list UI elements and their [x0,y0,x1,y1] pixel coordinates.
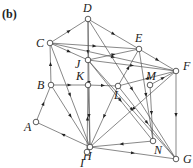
arrow-icon [68,113,73,118]
node-I [84,149,90,155]
arrow-icon [102,114,107,119]
node-label-L: L [113,88,121,102]
node-label-K: K [75,69,85,83]
node-label-E: E [134,31,143,45]
node-D [85,16,91,22]
directed-graph: (b) DCEFJKBLMAHNIG [0,0,193,168]
arrow-icon [67,49,72,54]
node-B [48,82,54,88]
node-C [47,40,53,46]
arrow-icon [68,93,72,98]
edges [36,19,178,159]
arrow-icon [49,62,52,66]
node-E [136,46,142,52]
arrow-icon [86,116,89,120]
node-J [85,57,91,63]
arrow-icon [174,113,177,117]
figure-tag: (b) [2,7,17,21]
node-label-N: N [153,143,163,157]
node-label-D: D [82,1,92,15]
node-label-F: F [182,59,191,73]
arrow-icon [160,76,165,81]
arrow-icon [150,111,153,115]
node-A [33,119,39,125]
arrow-icon [111,32,116,37]
node-label-A: A [23,120,32,134]
arrow-icon [68,83,72,86]
node-F [173,68,179,74]
arrow-icon [41,101,45,106]
arrow-icon [155,58,160,63]
node-M [147,82,153,88]
node-K [85,82,91,88]
node-label-M: M [145,69,157,83]
arrow-icon [92,44,96,47]
graph-figure: (b) DCEFJKBLMAHNIG [0,0,193,168]
node-label-G: G [183,152,192,166]
node-label-C: C [36,36,45,50]
arrow-icon [119,142,123,146]
arrow-icon [101,84,105,87]
node-label-B: B [37,78,45,92]
node-G [173,156,179,162]
arrow-icon [66,29,71,34]
arrow-icon [130,86,135,91]
arrow-icon [61,132,66,137]
